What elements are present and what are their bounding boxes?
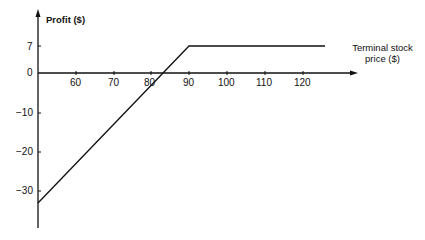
y-tick-label: 0 [27,67,33,78]
x-tick-label: 110 [256,77,272,88]
y-tick-label: −10 [16,107,33,118]
x-axis-arrow-icon [350,71,358,76]
x-tick-label: 90 [183,77,194,88]
y-tick-label: 7 [27,41,33,52]
x-tick-label: 60 [70,77,81,88]
y-axis-label: Profit ($) [46,14,85,25]
y-tick-label: −30 [16,185,33,196]
x-tick-label: 120 [294,77,311,88]
x-tick-label: 80 [144,77,155,88]
y-tick-label: −20 [16,146,33,157]
x-axis-label-line2: price ($) [345,53,420,64]
x-axis-label: Terminal stock price ($) [345,42,420,64]
chart-canvas [0,0,425,240]
x-axis-label-line1: Terminal stock [345,42,420,53]
x-tick-label: 100 [218,77,235,88]
y-axis-arrow-icon [36,9,41,17]
x-tick-label: 70 [108,77,119,88]
profit-line [38,46,325,203]
